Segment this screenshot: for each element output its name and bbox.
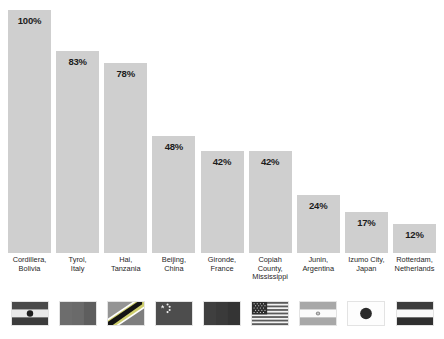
bar-value-label: 17%	[345, 217, 388, 228]
bar[interactable]: 42%	[201, 151, 244, 253]
bar[interactable]: 100%	[8, 10, 51, 253]
flag-cell	[297, 301, 340, 326]
flag-france-icon	[203, 301, 241, 326]
bar-value-label: 42%	[249, 156, 292, 167]
bar-slot: 42%	[249, 10, 292, 253]
bar-value-label: 78%	[104, 68, 147, 79]
bar-chart: 100% 83% 78% 48% 42% 42%	[0, 0, 444, 339]
flag-cell	[345, 301, 388, 326]
bar[interactable]: 17%	[345, 212, 388, 253]
bar-value-label: 100%	[8, 15, 51, 26]
bar-slot: 78%	[104, 10, 147, 253]
bar-slot: 42%	[201, 10, 244, 253]
plot-area: 100% 83% 78% 48% 42% 42%	[8, 10, 436, 253]
flag-cell	[249, 301, 292, 326]
category-label: Hai, Tanzania	[102, 256, 149, 290]
bar-slot: 24%	[297, 10, 340, 253]
bar-slot: 100%	[8, 10, 51, 253]
bar-value-label: 42%	[201, 156, 244, 167]
category-label: Gironde, France	[199, 256, 246, 290]
bar[interactable]: 24%	[297, 195, 340, 253]
bar-slot: 17%	[345, 10, 388, 253]
category-label: Beijing, China	[150, 256, 197, 290]
flag-italy-icon	[59, 301, 97, 326]
flag-cell	[8, 301, 51, 326]
flag-argentina-icon	[299, 301, 337, 326]
country-flags-row	[8, 300, 436, 327]
bar[interactable]: 78%	[104, 63, 147, 253]
flag-cell	[393, 301, 436, 326]
bar-value-label: 48%	[152, 141, 195, 152]
flag-cell	[152, 301, 195, 326]
bar-slot: 12%	[393, 10, 436, 253]
flag-united-states-icon	[251, 301, 289, 326]
flag-bolivia-icon	[11, 301, 49, 326]
category-label: Junin, Argentina	[295, 256, 342, 290]
bar[interactable]: 42%	[249, 151, 292, 253]
flag-netherlands-icon	[396, 301, 434, 326]
category-label: Tyrol, Italy	[54, 256, 101, 290]
category-label: Rotterdam, Netherlands	[391, 256, 438, 290]
category-label: Cordillera, Bolivia	[6, 256, 53, 290]
bar[interactable]: 12%	[393, 224, 436, 253]
flag-cell	[201, 301, 244, 326]
flag-tanzania-icon	[107, 301, 145, 326]
bar[interactable]: 83%	[56, 51, 99, 253]
category-axis-labels: Cordillera, Bolivia Tyrol, Italy Hai, Ta…	[8, 256, 436, 290]
bar[interactable]: 48%	[152, 136, 195, 253]
bar-value-label: 24%	[297, 200, 340, 211]
bar-slot: 48%	[152, 10, 195, 253]
category-label: Izumo City, Japan	[343, 256, 390, 290]
flag-cell	[104, 301, 147, 326]
bar-slot: 83%	[56, 10, 99, 253]
flag-japan-icon	[347, 301, 385, 326]
flag-cell	[56, 301, 99, 326]
bar-value-label: 83%	[56, 56, 99, 67]
flag-china-icon	[155, 301, 193, 326]
category-label: Copiah County, Mississippi	[247, 256, 294, 290]
bar-value-label: 12%	[393, 229, 436, 240]
